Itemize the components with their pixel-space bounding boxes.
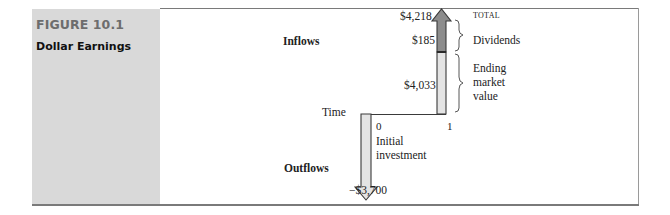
initial-investment-label: Initial investment [376,134,426,162]
total-value: $4,218 [400,10,432,22]
time-one-label: 1 [447,120,453,132]
time-zero-label: 0 [376,120,382,132]
inflows-label: Inflows [283,35,319,47]
ending-market-value-bar [437,52,446,114]
outflows-label: Outflows [284,162,329,174]
initial-investment-value: −$3,700 [349,184,387,196]
inflow-arrow-icon [432,9,451,114]
dividends-value: $185 [412,34,435,46]
dividends-label: Dividends [473,34,520,46]
ending-value-brace-icon [455,54,463,112]
dividends-brace-icon [455,20,463,51]
time-label: Time [322,106,346,118]
total-label: TOTAL [473,11,500,20]
ending-market-value: $4,033 [404,79,436,91]
ending-market-value-label: Ending market value [473,61,506,103]
